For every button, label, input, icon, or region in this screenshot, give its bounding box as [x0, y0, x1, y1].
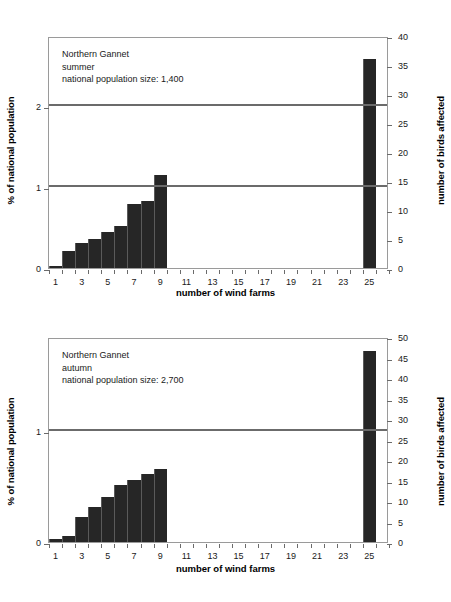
- y-axis-title-left-summer: % of national population: [0, 25, 22, 275]
- y-tick-label-left: 0: [15, 538, 41, 548]
- x-tick: [88, 270, 89, 274]
- x-tick-label: 5: [98, 277, 118, 287]
- x-tick-label: 25: [359, 277, 379, 287]
- bar: [114, 485, 127, 542]
- annotation-line-species: Northern Gannet: [62, 349, 184, 362]
- x-tick-label: 17: [255, 277, 275, 287]
- x-tick: [167, 544, 168, 548]
- x-tick: [271, 270, 272, 274]
- x-tick: [337, 544, 338, 548]
- figure-summer: % of national population number of birds…: [0, 0, 451, 301]
- x-tick: [350, 544, 351, 548]
- bar: [88, 507, 101, 542]
- annotation-line-population: national population size: 2,700: [62, 374, 184, 387]
- x-tick-label: 3: [72, 551, 92, 561]
- x-tick: [376, 544, 377, 548]
- y-tick-label-right: 35: [398, 61, 424, 71]
- bar: [127, 480, 140, 542]
- y-tick-right: [387, 241, 392, 242]
- y-tick-label-left: 1: [15, 183, 41, 193]
- x-tick: [154, 544, 155, 548]
- y-tick-label-right: 25: [398, 119, 424, 129]
- x-tick-label: 11: [176, 551, 196, 561]
- annotation-line-season: autumn: [62, 362, 184, 375]
- y-tick-right: [387, 462, 392, 463]
- bar: [88, 239, 101, 268]
- x-tick: [311, 270, 312, 274]
- x-tick: [389, 544, 390, 548]
- x-tick-label: 19: [281, 277, 301, 287]
- x-tick-label: 7: [124, 277, 144, 287]
- x-tick: [141, 544, 142, 548]
- x-axis-title-autumn: number of wind farms: [0, 563, 451, 574]
- y-tick-right: [387, 125, 392, 126]
- x-tick: [206, 544, 207, 548]
- bar: [363, 59, 376, 268]
- figure-autumn: % of national population number of birds…: [0, 301, 451, 602]
- x-tick: [101, 544, 102, 548]
- x-tick: [219, 544, 220, 548]
- reference-line: [49, 429, 387, 431]
- x-tick: [324, 544, 325, 548]
- x-tick: [271, 544, 272, 548]
- x-tick: [376, 270, 377, 274]
- annotation-summer: Northern Gannet summer national populati…: [62, 48, 184, 86]
- y-tick-left: [44, 433, 49, 434]
- x-tick-label: 21: [307, 551, 327, 561]
- x-axis-title-summer: number of wind farms: [0, 287, 451, 298]
- y-tick-label-left: 0: [15, 264, 41, 274]
- x-tick: [101, 270, 102, 274]
- bar: [141, 201, 154, 268]
- bar: [101, 232, 114, 268]
- y-tick-right: [387, 96, 392, 97]
- y-tick-right: [387, 401, 392, 402]
- y-tick-label-left: 2: [15, 102, 41, 112]
- x-tick: [284, 544, 285, 548]
- y-tick-right: [387, 183, 392, 184]
- y-axis-title-right-summer: number of birds affected: [429, 25, 451, 275]
- y-tick-right: [387, 421, 392, 422]
- y-tick-label-right: 0: [398, 538, 424, 548]
- y-tick-right: [387, 67, 392, 68]
- x-tick: [258, 270, 259, 274]
- y-tick-left: [44, 108, 49, 109]
- bar: [114, 226, 127, 268]
- x-tick: [127, 270, 128, 274]
- bar: [127, 204, 140, 268]
- bar: [154, 469, 167, 542]
- x-tick-label: 19: [281, 551, 301, 561]
- x-tick: [141, 270, 142, 274]
- reference-line: [49, 104, 387, 106]
- x-tick: [167, 270, 168, 274]
- x-tick: [389, 270, 390, 274]
- y-tick-right: [387, 360, 392, 361]
- y-tick-right: [387, 503, 392, 504]
- y-tick-label-right: 5: [398, 518, 424, 528]
- x-tick: [180, 270, 181, 274]
- bar: [62, 536, 75, 542]
- y-tick-label-right: 45: [398, 354, 424, 364]
- x-tick: [62, 270, 63, 274]
- reference-line: [49, 185, 387, 187]
- bar: [363, 351, 376, 542]
- x-tick-label: 5: [98, 551, 118, 561]
- bar: [101, 497, 114, 542]
- x-tick: [350, 270, 351, 274]
- bar: [49, 266, 62, 268]
- annotation-line-population: national population size: 1,400: [62, 73, 184, 86]
- y-tick-right: [387, 154, 392, 155]
- y-tick-right: [387, 339, 392, 340]
- x-tick-label: 15: [229, 551, 249, 561]
- x-tick-label: 15: [229, 277, 249, 287]
- x-tick: [324, 270, 325, 274]
- bar: [75, 243, 88, 268]
- x-tick: [114, 270, 115, 274]
- y-tick-right: [387, 38, 392, 39]
- x-tick-label: 23: [333, 551, 353, 561]
- x-tick-label: 23: [333, 277, 353, 287]
- y-tick-label-right: 40: [398, 374, 424, 384]
- x-tick: [258, 544, 259, 548]
- y-tick-label-right: 20: [398, 148, 424, 158]
- y-tick-label-right: 50: [398, 333, 424, 343]
- x-tick: [154, 270, 155, 274]
